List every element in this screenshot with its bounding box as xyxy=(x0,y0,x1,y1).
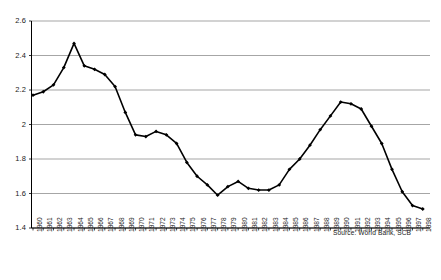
y-axis-tick-label: 1.6 xyxy=(0,189,26,198)
x-axis-tick-label: 1986 xyxy=(302,217,309,232)
x-axis-tick-label: 1980 xyxy=(241,217,248,232)
x-axis-tick-label: 1964 xyxy=(77,217,84,232)
x-axis-tick-label: 1984 xyxy=(282,217,289,232)
x-axis-tick-label: 1997 xyxy=(415,217,422,232)
x-axis-tick-label: 1961 xyxy=(46,217,53,232)
y-axis-tick-label: 2 xyxy=(0,120,26,129)
data-series-line xyxy=(33,43,423,209)
x-axis-tick-label: 1985 xyxy=(292,217,299,232)
source-annotation: Source: World Bank, SCB xyxy=(333,229,411,236)
x-axis-tick-label: 1971 xyxy=(148,217,155,232)
y-axis-tick-label: 1.8 xyxy=(0,154,26,163)
x-axis-tick-label: 1969 xyxy=(128,217,135,232)
y-axis-tick-label: 2.4 xyxy=(0,51,26,60)
y-axis-tick-label: 1.4 xyxy=(0,223,26,232)
data-point-marker xyxy=(421,207,425,211)
y-axis-tick-label: 2.2 xyxy=(0,85,26,94)
data-point-marker xyxy=(257,188,261,192)
x-axis-tick-label: 1987 xyxy=(313,217,320,232)
x-axis-tick-label: 1968 xyxy=(118,217,125,232)
x-axis-tick-label: 1976 xyxy=(200,217,207,232)
x-axis-tick-label: 1978 xyxy=(220,217,227,232)
x-axis-tick-label: 1967 xyxy=(107,217,114,232)
x-axis-tick-label: 1977 xyxy=(210,217,217,232)
x-axis-tick-label: 1974 xyxy=(179,217,186,232)
x-axis-tick-label: 1973 xyxy=(169,217,176,232)
x-axis-tick-label: 1970 xyxy=(138,217,145,232)
x-axis-tick-label: 1975 xyxy=(189,217,196,232)
x-axis-tick-label: 1983 xyxy=(272,217,279,232)
x-axis-tick-label: 1962 xyxy=(56,217,63,232)
y-axis-tick-label: 2.6 xyxy=(0,16,26,25)
x-axis-tick-label: 1998 xyxy=(425,217,432,232)
data-point-markers xyxy=(31,42,425,211)
x-axis-tick-label: 1979 xyxy=(230,217,237,232)
x-axis-tick-label: 1965 xyxy=(87,217,94,232)
x-axis-tick-label: 1972 xyxy=(159,217,166,232)
chart-container: 1.41.61.822.22.42.6 19601961196219631964… xyxy=(0,0,441,280)
x-axis-tick-label: 1960 xyxy=(36,217,43,232)
x-axis-tick-label: 1982 xyxy=(261,217,268,232)
x-axis-tick-label: 1981 xyxy=(251,217,258,232)
x-axis-tick-label: 1963 xyxy=(66,217,73,232)
x-axis-tick-label: 1966 xyxy=(97,217,104,232)
x-axis-tick-label: 1988 xyxy=(323,217,330,232)
line-chart-plot xyxy=(0,0,441,280)
